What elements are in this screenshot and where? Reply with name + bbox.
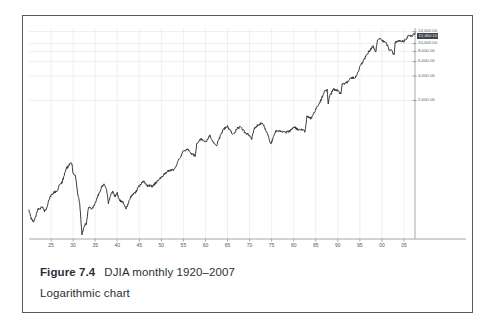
x-axis-label: 75 <box>269 243 275 248</box>
x-axis-label: 35 <box>92 243 98 248</box>
x-axis-label: 85 <box>313 243 319 248</box>
y-axis-label: 6,000.00 <box>418 59 435 63</box>
y-axis-label: 10,000.00 <box>418 41 437 45</box>
x-axis-label: 40 <box>114 243 120 248</box>
djia-price-series <box>29 33 415 235</box>
price-marker-label: 12,460.10 <box>417 33 438 39</box>
x-axis-label: 90 <box>335 243 341 248</box>
figure-number: Figure 7.4 <box>40 266 95 278</box>
x-axis-label: 95 <box>357 243 363 248</box>
x-axis-label: 25 <box>48 243 54 248</box>
x-axis-label: 70 <box>247 243 253 248</box>
x-axis-label: 30 <box>70 243 76 248</box>
x-axis-label: 60 <box>203 243 209 248</box>
vertical-gridlines <box>51 28 404 239</box>
x-axis-label: 45 <box>137 243 143 248</box>
chart-area: 14,000.0010,000.008,000.006,000.004,000.… <box>23 16 474 256</box>
figure-caption: Figure 7.4DJIA monthly 1920–2007 Logarit… <box>40 264 460 301</box>
x-axis-label: 80 <box>291 243 297 248</box>
x-axis-label: 55 <box>181 243 187 248</box>
y-axis-label: 2,000.00 <box>418 98 435 102</box>
djia-log-line-chart <box>23 16 474 256</box>
figure-title: DJIA monthly 1920–2007 <box>104 266 235 278</box>
caption-line-primary: Figure 7.4DJIA monthly 1920–2007 <box>40 264 460 280</box>
x-axis-label: 65 <box>225 243 231 248</box>
x-axis-label: 50 <box>159 243 165 248</box>
x-axis-label: 00 <box>379 243 385 248</box>
horizontal-gridlines <box>29 32 415 101</box>
figure-frame: 14,000.0010,000.008,000.006,000.004,000.… <box>22 15 473 313</box>
x-axis-label: 05 <box>401 243 407 248</box>
caption-line-secondary: Logarithmic chart <box>40 285 460 301</box>
y-axis-label: 8,000.00 <box>418 49 435 53</box>
y-axis-label: 4,000.00 <box>418 74 435 78</box>
